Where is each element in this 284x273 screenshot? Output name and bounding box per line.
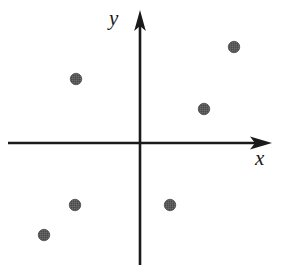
x-axis-label: x [255, 148, 264, 169]
data-point-p5 [69, 199, 81, 211]
y-axis-label: y [109, 8, 118, 29]
data-point-p1 [228, 41, 240, 53]
data-point-p6 [164, 199, 176, 211]
coordinate-plane-svg [0, 0, 284, 273]
data-point-p4 [38, 229, 50, 241]
data-point-p2 [198, 103, 210, 115]
scatter-plot-figure: y x [0, 0, 284, 273]
data-point-p3 [70, 73, 82, 85]
y-axis [134, 10, 146, 265]
